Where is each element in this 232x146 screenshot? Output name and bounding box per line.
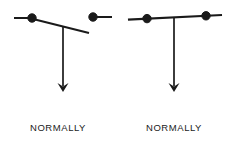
normally-open-symbol: [0, 0, 116, 105]
normally-closed-caption-line-2: CLOSED: [116, 145, 232, 146]
normally-closed-symbol: [116, 0, 232, 105]
normally-closed-caption: NORMALLY CLOSED: [116, 110, 232, 145]
diagram-canvas: NORMALLY OPEN NORMALLY CLOSED: [0, 0, 232, 145]
normally-open-caption: NORMALLY OPEN: [0, 110, 116, 145]
nc-right-contact-dot: [202, 12, 210, 20]
normally-open-caption-line-1: NORMALLY: [0, 122, 116, 134]
nc-left-contact-dot: [143, 14, 151, 22]
no-movable-contact-bar: [29, 18, 89, 33]
normally-closed-caption-line-1: NORMALLY: [116, 122, 232, 134]
normally-open-caption-line-2: OPEN: [0, 145, 116, 146]
